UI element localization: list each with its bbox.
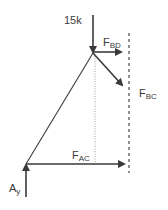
fac-label: FAC xyxy=(72,149,90,163)
ay-label: Ay xyxy=(9,182,20,196)
fbc-label: FBC xyxy=(139,87,157,101)
fbc-arrow xyxy=(93,53,122,85)
fbd-label: FBD xyxy=(103,36,121,50)
load-label: 15k xyxy=(64,14,82,26)
member-ab xyxy=(26,53,93,164)
free-body-diagram: 15k FBD FBC FAC Ay xyxy=(0,0,168,210)
